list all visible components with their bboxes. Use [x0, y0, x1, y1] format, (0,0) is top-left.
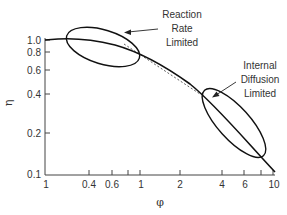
svg-text:Diffusion: Diffusion — [241, 74, 280, 85]
svg-text:Reaction: Reaction — [162, 9, 201, 20]
x-tick-labels: 1 0.4 0.6 1 2 4 6 10 — [43, 179, 280, 190]
y-axis-label: η — [2, 100, 15, 107]
reaction-rate-annotation: Reaction Rate Limited — [162, 9, 201, 48]
svg-text:Limited: Limited — [166, 37, 198, 48]
y-tick-labels: 1.0 0.8 0.6 0.4 0.2 0.1 — [27, 35, 41, 180]
x-ticks — [89, 170, 273, 175]
x-tick-label: 4 — [219, 179, 225, 190]
effectiveness-curve — [45, 39, 275, 172]
effectiveness-factor-chart: 1.0 0.8 0.6 0.4 0.2 0.1 1 0.4 0.6 1 2 4 … — [0, 0, 287, 215]
x-tick-label: 6 — [242, 179, 248, 190]
x-tick-label: 2 — [177, 179, 183, 190]
reaction-rate-arrow — [124, 29, 158, 35]
y-tick-label: 0.4 — [27, 89, 41, 100]
diffusion-annotation: Internal Diffusion Limited — [241, 60, 280, 99]
y-tick-label: 0.8 — [27, 47, 41, 58]
y-tick-label: 0.1 — [27, 169, 41, 180]
x-axis-label: φ — [156, 196, 164, 209]
svg-text:Internal: Internal — [243, 60, 276, 71]
svg-text:Rate: Rate — [171, 23, 193, 34]
x-tick-label: 1 — [138, 179, 144, 190]
y-tick-label: 0.6 — [27, 65, 41, 76]
svg-text:Limited: Limited — [244, 88, 276, 99]
x-tick-label: 10 — [268, 179, 280, 190]
x-tick-label: 1 — [43, 179, 49, 190]
y-ticks — [45, 40, 50, 133]
y-tick-label: 1.0 — [27, 35, 41, 46]
x-tick-label: 0.6 — [105, 179, 119, 190]
reaction-rate-region-ellipse — [62, 20, 145, 75]
y-tick-label: 0.2 — [27, 128, 41, 139]
x-tick-label: 0.4 — [82, 179, 96, 190]
